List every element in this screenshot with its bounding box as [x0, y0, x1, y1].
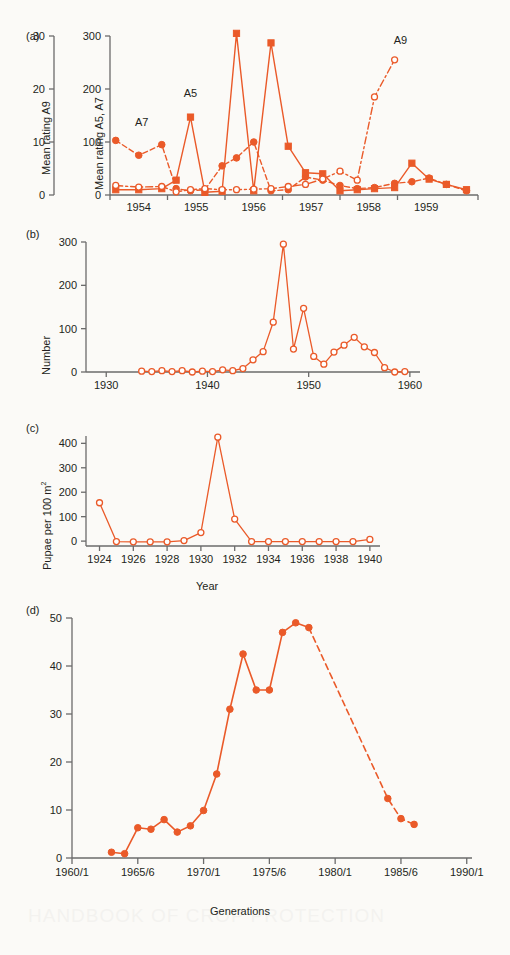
panel-b-marker: [351, 334, 357, 340]
panel-a-annotation-A5: A5: [184, 87, 197, 99]
panel-b-marker: [220, 367, 226, 373]
panel-c-marker: [181, 538, 187, 544]
panel-d-marker: [161, 816, 168, 823]
panel-a-marker: [392, 57, 398, 63]
panel-d-label: (d): [26, 604, 39, 616]
panel-d-marker: [306, 624, 313, 631]
panel-d-x-tick-label: 1985/6: [384, 866, 418, 878]
panel-a-left-tick-label: 10: [33, 136, 45, 148]
panel-b-marker: [149, 369, 155, 375]
panel-a-marker: [409, 178, 416, 185]
panel-d-y-tick-label: 0: [56, 852, 62, 864]
panel-a-marker: [188, 187, 194, 193]
panel-a-marker: [187, 114, 193, 120]
panel-a-marker: [268, 40, 274, 46]
panel-b-marker: [331, 349, 337, 355]
panel-b-marker: [382, 365, 388, 371]
panel-a-marker: [251, 186, 257, 192]
panel-c-marker: [367, 536, 373, 542]
panel-c-x-tick-label: 1938: [324, 553, 348, 565]
panel-d-marker: [148, 826, 155, 833]
panel-a-x-tick-label: 1957: [299, 201, 323, 213]
panel-a-marker: [409, 160, 415, 166]
panel-b-x-tick-label: 1950: [296, 379, 320, 391]
panel-a-annotation-A7: A7: [135, 116, 148, 128]
panel-b-marker: [301, 305, 307, 311]
panel-b-y-tick-label: 100: [59, 323, 77, 335]
panel-a-marker: [234, 187, 240, 193]
panel-a-series-A5: [116, 33, 467, 192]
panel-b-marker: [240, 366, 246, 372]
panel-c-y-tick-label: 0: [71, 535, 77, 547]
panel-d-y-tick-label: 30: [50, 708, 62, 720]
panel-b-x-tick-label: 1940: [195, 379, 219, 391]
panel-b-marker: [179, 368, 185, 374]
panel-d-marker: [187, 823, 194, 830]
panel-d-marker: [279, 629, 286, 636]
panel-c-axis-title-text: Pupae per 100 m: [41, 486, 53, 570]
panel-a-marker: [337, 188, 343, 194]
panel-d-marker: [411, 821, 418, 828]
panel-a-marker: [112, 137, 119, 144]
panel-a-marker: [426, 176, 432, 182]
panel-d-markers: [108, 620, 417, 857]
panel-a-marker: [268, 186, 274, 192]
panel-a-left-tick-label: 20: [33, 83, 45, 95]
panel-d-marker: [227, 706, 234, 713]
panel-d-xlabel: Generations: [210, 905, 270, 917]
panel-b: (b) Number 01002003001930194019501960: [0, 220, 510, 420]
panel-b-marker: [270, 319, 276, 325]
panel-b-x-tick-label: 1930: [94, 379, 118, 391]
panel-d-series-segment-0: [112, 623, 309, 854]
panel-c-marker: [113, 539, 119, 545]
panel-a-sec-tick-label: 200: [83, 83, 101, 95]
panel-a-x-tick-label: 1955: [184, 201, 208, 213]
panel-b-marker: [139, 368, 145, 374]
panel-c-x-tick-label: 1940: [358, 553, 382, 565]
panel-c-series: [100, 437, 370, 542]
panel-c-y-tick-label: 400: [59, 437, 77, 449]
panel-c-axis-title: Pupae per 100 m2: [40, 482, 53, 570]
panel-c-x-tick-label: 1934: [256, 553, 280, 565]
panel-d-plot: 010203040501960/11965/61970/11975/61980/…: [42, 600, 502, 900]
panel-b-marker: [371, 350, 377, 356]
panel-d-x-tick-label: 1970/1: [187, 866, 221, 878]
panel-a-marker: [371, 186, 377, 192]
panel-a-x-tick-label: 1956: [242, 201, 266, 213]
panel-a-sec-tick-label: 300: [83, 30, 101, 42]
panel-c-y-tick-label: 300: [59, 462, 77, 474]
panel-a-marker: [173, 189, 179, 195]
panel-a-marker: [285, 143, 291, 149]
panel-d-y-tick-label: 50: [50, 612, 62, 624]
panel-b-label: (b): [26, 228, 39, 240]
panel-b-axis-title: Number: [40, 336, 52, 375]
panel-b-marker: [210, 369, 216, 375]
panel-b-plot: 01002003001930194019501960: [58, 220, 458, 420]
panel-c-xlabel: Year: [196, 580, 218, 592]
panel-c-x-tick-label: 1926: [121, 553, 145, 565]
panel-a: (a) Mean rating A9 Mean rating A5, A7 01…: [0, 0, 510, 220]
panel-b-marker: [250, 357, 256, 363]
panel-c-marker: [249, 539, 255, 545]
panel-a-marker: [219, 187, 225, 193]
panel-c-marker: [215, 434, 221, 440]
panel-c-marker: [299, 539, 305, 545]
panel-a-marker: [173, 177, 179, 183]
panel-c-label: (c): [26, 422, 39, 434]
panel-a-left-tick-label: 0: [39, 189, 45, 201]
panel-a-marker: [463, 187, 469, 193]
panel-d: (d) Eggs per leaf Generations 0102030405…: [0, 600, 510, 955]
panel-d-marker: [134, 824, 141, 831]
panel-c-marker: [232, 516, 238, 522]
panel-c-x-tick-label: 1924: [87, 553, 111, 565]
panel-d-marker: [108, 849, 115, 856]
panel-a-x-tick-label: 1958: [357, 201, 381, 213]
panel-c-axis-title-superscript: 2: [40, 482, 47, 486]
panel-a-marker: [233, 155, 240, 162]
panel-b-marker: [311, 353, 317, 359]
panel-a-marker: [202, 186, 208, 192]
panel-c-y-tick-label: 200: [59, 486, 77, 498]
panel-b-y-tick-label: 200: [59, 279, 77, 291]
panel-b-y-tick-label: 0: [71, 366, 77, 378]
panel-a-marker: [443, 181, 449, 187]
